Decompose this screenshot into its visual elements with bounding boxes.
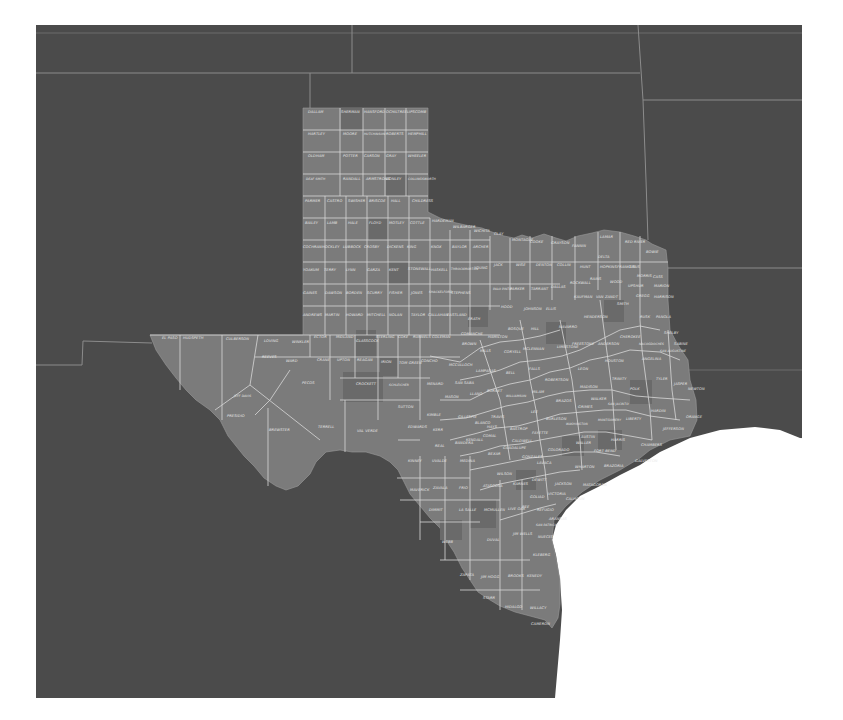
county-label: ANDREWS [302,313,323,317]
county-label: EDWARDS [408,425,428,429]
county-label: ATASCOSA [482,484,503,488]
county-label: IRION [381,360,392,364]
county-label: MONTGOMERY [598,418,622,422]
county-label: TRINITY [612,377,627,381]
county-label: VAL VERDE [357,429,379,433]
county-label: DENTON [536,263,552,267]
county-label: JOHNSON [523,307,542,311]
county-label: NUECES [538,535,554,539]
county-label: HUTCHINSON [364,132,386,136]
county-label: MARTIN [325,313,340,317]
county-label: GARZA [367,268,381,272]
county-label: DUVAL [487,538,500,542]
county-label: SCHLEICHER [389,383,409,387]
county-label: RAINS [590,277,602,281]
county-label: LA SALLE [459,508,477,512]
county-label: LIBERTY [626,417,642,421]
county-label: LOVING [264,339,278,343]
county-label: POTTER [343,154,358,158]
county-label: BRAZORIA [604,464,624,468]
county-label: CROCKETT [356,382,377,386]
county-label: CROSBY [364,245,380,249]
county-label: MARION [654,284,669,288]
county-label: GILLESPIE [458,415,477,419]
county-label: DEWITT [532,478,547,482]
county-label: HASKELL [431,268,448,272]
county-label: SABINE [674,342,688,346]
county-label: OCHILTREE [386,110,408,114]
county-label: BURNET [487,389,503,393]
county-label: MOORE [343,132,358,136]
county-label: BOWIE [646,250,659,254]
county-label: DONLEY [386,177,402,181]
county-label: WILBARGER [453,225,476,229]
county-label: CASS [653,275,663,279]
county-label: WILLIAMSON [506,394,527,398]
county-label: BEE [522,505,530,509]
county-label: DELTA [598,255,610,259]
county-label: ANDERSON [597,342,619,346]
county-label: KAUFMAN [574,295,593,299]
county-label: WALKER [591,397,607,401]
county-label: STONEWALL [408,267,431,271]
county-label: GREGG [636,294,650,298]
county-label: HARDEMAN [432,219,454,223]
county-label: KINNEY [408,459,423,463]
county-label: LLANO [470,392,483,396]
county-label: ERATH [468,317,481,321]
county-label: WEBB [442,540,454,544]
county-label: KLEBERG [533,553,550,557]
county-label: LAMB [327,221,338,225]
county-label: AUSTIN [580,435,595,439]
county-label: EASTLAND [447,313,467,317]
county-label: GRIMES [578,405,593,409]
county-label: COLEMAN [432,335,451,339]
county-label: BELL [506,371,515,375]
county-label: JONES [410,291,423,295]
county-label: RUSK [640,315,651,319]
county-label: LAVACA [537,461,552,465]
county-label: COMANCHE [461,332,483,336]
county-label: COMAL [483,434,496,438]
county-label: HOPKINS [600,265,617,269]
county-label: TAYLOR [411,313,426,317]
county-label: SAN SABA [455,381,474,385]
county-label: VICTORIA [548,492,566,496]
county-label: LEE [531,410,538,414]
county-label: CHAMBERS [641,443,663,447]
county-label: KING [407,245,416,249]
county-label: LAMPASAS [476,369,496,373]
county-label: COKE [398,335,409,339]
county-label: MIDLAND [336,335,354,339]
county-label: ROCKWALL [570,281,591,285]
county-label: MILAM [532,390,544,394]
county-label: WHEELER [408,154,427,158]
county-label: HUDSPETH [183,336,204,340]
county-label: WHARTON [575,465,595,469]
county-label: BREWSTER [269,428,290,432]
county-label: CASTRO [327,199,342,203]
county-label: NOLAN [389,313,402,317]
county-label: CALLAHAN [428,313,448,317]
county-label: HILL [531,327,539,331]
county-label: JACKSON [554,482,572,486]
county-label: MCMULLEN [484,508,505,512]
county-label: GONZALES [522,455,543,459]
county-label: HALE [348,221,358,225]
county-label: SAN JACINTO [608,402,629,406]
county-label: UPTON [337,358,350,362]
county-label: WILLACY [530,606,547,610]
county-label: YOUNG [474,266,488,270]
county-label: MATAGORDA [583,483,607,487]
county-label: WICHITA [474,229,490,233]
county-label: GLASSCOCK [356,339,379,343]
county-label: GAINES [303,291,318,295]
county-label: NACOGDOCHES [639,342,664,346]
county-label: HARDIN [651,409,666,413]
county-label: SHELBY [664,331,679,335]
county-label: GRAYSON [551,241,570,245]
county-label: HARRIS [611,438,626,442]
county-label: HEMPHILL [408,132,427,136]
county-label: HOUSTON [605,359,624,363]
county-label: VAN ZANDT [596,295,619,299]
